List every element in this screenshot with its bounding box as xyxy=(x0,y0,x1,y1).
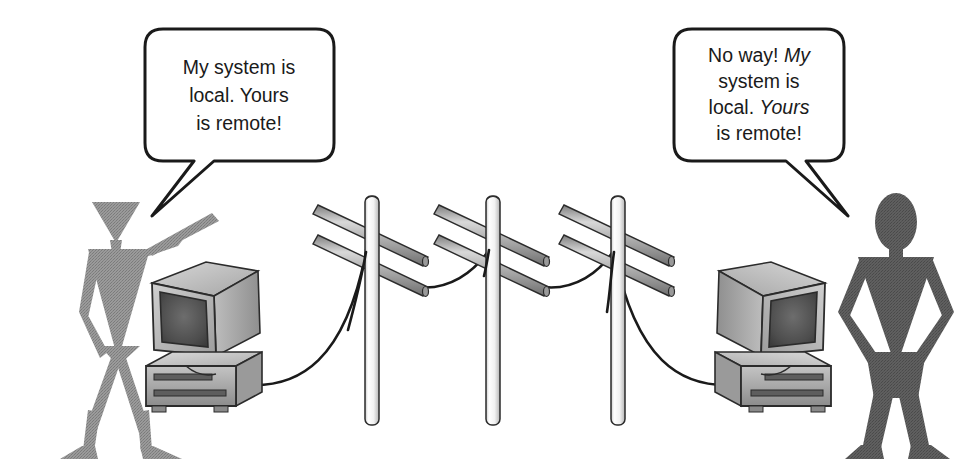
left-bubble-line-1: My system is xyxy=(183,56,296,78)
pole-2-mast xyxy=(486,196,500,425)
right-bubble-line-1: No way! My xyxy=(708,44,811,66)
right-case-foot-1 xyxy=(811,406,825,412)
left-case-drive-slot-2 xyxy=(154,390,226,396)
right-bubble-line-4: is remote! xyxy=(716,122,802,144)
computer-right xyxy=(715,262,831,412)
cartoon-illustration: My system is local. Yours is remote! No … xyxy=(0,0,977,474)
right-monitor-screen xyxy=(769,292,817,347)
scene-canvas: My system is local. Yours is remote! No … xyxy=(0,0,977,474)
computer-left xyxy=(146,262,262,412)
right-person-head xyxy=(875,193,917,251)
left-monitor-screen xyxy=(160,292,208,347)
left-case-foot-2 xyxy=(214,406,228,412)
right-person-neck xyxy=(889,246,903,258)
pole-1-mast xyxy=(365,196,379,425)
right-person-hips xyxy=(866,352,926,398)
right-case-foot-2 xyxy=(749,406,763,412)
left-case-front xyxy=(146,366,236,406)
left-bubble-line-3: is remote! xyxy=(196,112,282,134)
right-case-drive-slot-2 xyxy=(751,390,823,396)
right-case-front xyxy=(741,366,831,406)
right-bubble-line-2: system is xyxy=(718,70,800,92)
right-bubble-line-3: local. Yours xyxy=(709,96,810,118)
left-case-foot-1 xyxy=(152,406,166,412)
left-bubble-line-2: local. Yours xyxy=(189,84,289,106)
pole-3-mast xyxy=(611,196,625,425)
